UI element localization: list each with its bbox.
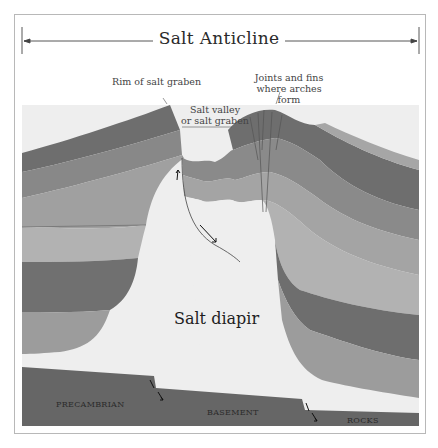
- label-rocks: ROCKS: [347, 416, 379, 425]
- rim-leader-line: [163, 98, 167, 104]
- label-salt-diapir: Salt diapir: [174, 309, 259, 328]
- salt-anticline-cross-section: [0, 0, 438, 448]
- label-joints-line2: where arches form: [244, 83, 334, 105]
- label-joints-and-fins: Joints and fins where arches form: [244, 72, 334, 105]
- label-salt-valley: Salt valley or salt graben: [180, 104, 250, 126]
- label-precambrian: PRECAMBRIAN: [56, 400, 124, 409]
- label-salt-valley-line2: or salt graben: [180, 115, 250, 126]
- diagram-title: Salt Anticline: [0, 28, 438, 48]
- label-rim-of-salt-graben: Rim of salt graben: [112, 76, 201, 87]
- label-joints-line1: Joints and fins: [244, 72, 334, 83]
- label-basement: BASEMENT: [207, 408, 259, 417]
- label-salt-valley-line1: Salt valley: [180, 104, 250, 115]
